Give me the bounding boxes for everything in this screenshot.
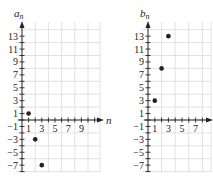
grid	[142, 22, 211, 172]
y-axis-label: bn	[140, 7, 150, 21]
data-point	[40, 163, 45, 168]
y-tick-label: −1	[7, 121, 18, 132]
sequence-plots: 131197531−1−3−5−713579ann 131197531−1−3−…	[0, 0, 213, 176]
x-tick-label: 1	[152, 123, 157, 134]
y-tick-label: 3	[13, 95, 18, 106]
y-tick-label: 9	[13, 56, 18, 67]
y-tick-label: −3	[7, 134, 18, 145]
x-tick-label: 9	[79, 123, 84, 134]
x-tick-label: 5	[180, 123, 185, 134]
y-tick-label: 1	[139, 108, 144, 119]
data-point	[33, 137, 38, 142]
plot-a-n: 131197531−1−3−5−713579ann	[7, 7, 112, 172]
x-tick-label: 3	[166, 123, 171, 134]
y-tick-label: 13	[134, 31, 144, 42]
y-tick-label: −7	[7, 160, 18, 171]
y-tick-labels: 131197531−1−3−5−7	[133, 31, 144, 171]
y-tick-label: 7	[139, 69, 144, 80]
y-tick-label: −5	[7, 147, 18, 158]
x-tick-label: 5	[53, 123, 58, 134]
y-tick-label: 5	[13, 82, 18, 93]
y-tick-label: 11	[134, 44, 144, 55]
y-tick-label: 13	[8, 31, 18, 42]
y-tick-label: 7	[13, 69, 18, 80]
x-tick-label: 1	[26, 123, 31, 134]
y-tick-label: 1	[13, 108, 18, 119]
y-tick-label: −3	[133, 134, 144, 145]
y-arrow-icon	[20, 21, 25, 28]
data-point	[26, 111, 31, 116]
x-arrow-icon	[206, 118, 213, 123]
y-tick-label: −1	[133, 121, 144, 132]
y-tick-label: 9	[139, 56, 144, 67]
axes	[18, 21, 104, 172]
x-tick-label: 3	[39, 123, 44, 134]
x-tick-label: 7	[66, 123, 71, 134]
data-point	[159, 66, 164, 71]
x-tick-label: 7	[193, 123, 198, 134]
y-tick-label: 11	[8, 44, 18, 55]
grid	[16, 22, 100, 172]
data-point	[153, 98, 158, 103]
x-axis-label: n	[106, 114, 112, 126]
x-arrow-icon	[97, 118, 104, 123]
plot-b-n: 131197531−1−3−5−71357bn	[133, 7, 213, 172]
y-tick-label: −5	[133, 147, 144, 158]
y-arrow-icon	[146, 21, 151, 28]
x-tick-labels: 13579	[26, 123, 84, 134]
y-tick-labels: 131197531−1−3−5−7	[7, 31, 18, 171]
y-tick-label: −7	[133, 160, 144, 171]
y-axis-label: an	[14, 7, 24, 21]
y-tick-label: 5	[139, 82, 144, 93]
data-point	[166, 34, 171, 39]
y-tick-label: 3	[139, 95, 144, 106]
